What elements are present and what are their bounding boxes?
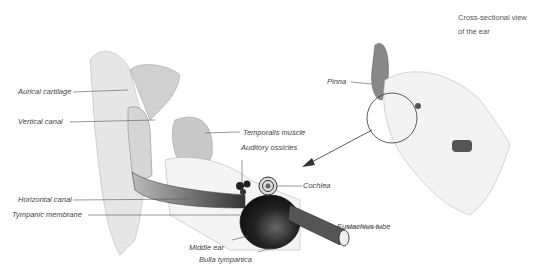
label-middle-ear: Middle ear	[189, 244, 224, 252]
label-tympanic-membrane: Tympanic membrane	[12, 211, 82, 219]
label-temporalis-muscle: Temporalis muscle	[243, 129, 305, 137]
ear-anatomy-illustration	[0, 0, 556, 276]
label-auricular-cartilage: Aurical cartilage	[18, 88, 71, 96]
title-line-2: of the ear	[458, 25, 527, 39]
label-pinna: Pinna	[327, 78, 346, 86]
zoom-arrow	[302, 130, 372, 167]
head-cross-section	[90, 51, 349, 255]
label-vertical-canal: Vertical canal	[18, 118, 63, 126]
dog-head-illustration	[367, 43, 510, 215]
label-cochlea: Cochlea	[303, 182, 331, 190]
label-bulla-tympanica: Bulla tympanica	[199, 256, 252, 264]
label-auditory-ossicles: Auditory ossicles	[241, 144, 297, 152]
diagram-title: Cross-sectional view of the ear	[458, 11, 527, 39]
label-eustachius-tube: Eustachius tube	[337, 223, 390, 231]
title-line-1: Cross-sectional view	[458, 11, 527, 25]
label-horizontal-canal: Horizontal canal	[18, 196, 72, 204]
